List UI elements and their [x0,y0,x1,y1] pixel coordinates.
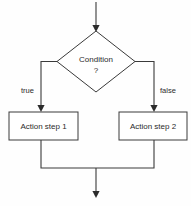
false-branch-arrowhead-icon [150,105,157,112]
flowchart-svg: Condition ? true false Action step 1 Act… [0,0,191,206]
exit-arrowhead-icon [92,191,99,198]
decision-label-line2: ? [94,66,99,75]
false-branch-connector [135,62,154,108]
merge-connector [41,140,154,168]
false-edge-label: false [160,86,176,95]
flowchart-canvas: Condition ? true false Action step 1 Act… [0,0,191,206]
true-edge-label: true [21,86,34,95]
true-branch-arrowhead-icon [37,105,44,112]
action-left-label: Action step 1 [20,122,67,131]
action-right-label: Action step 2 [130,122,177,131]
true-branch-connector [41,62,57,108]
decision-label-line1: Condition [79,55,113,64]
